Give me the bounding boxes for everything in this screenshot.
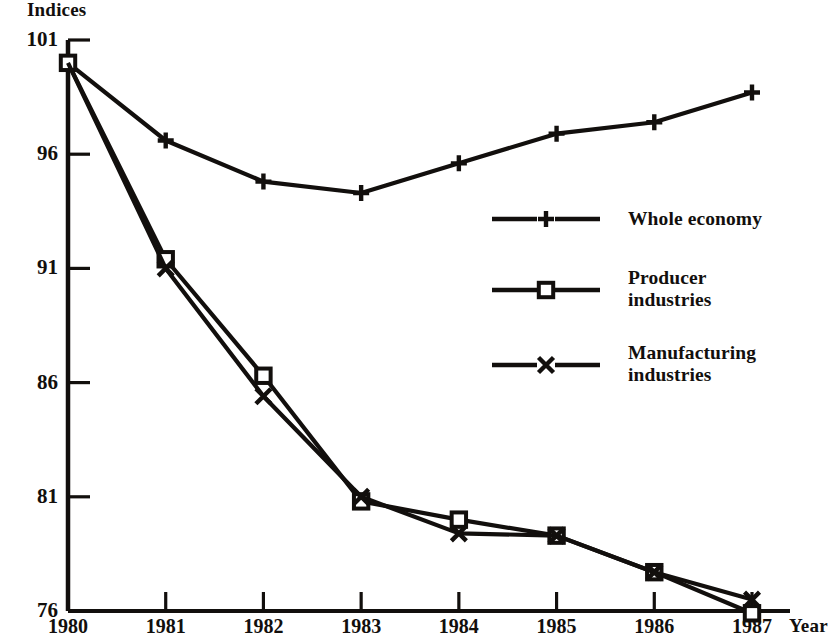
x-axis-tick-label: 1983 — [316, 616, 406, 636]
y-axis-tick-label: 101 — [0, 29, 58, 50]
cross-marker — [256, 389, 271, 404]
x-axis-tick-label: 1982 — [218, 616, 308, 636]
axes — [68, 40, 790, 611]
x-axis-tick-label: 1980 — [23, 616, 113, 636]
square-marker — [452, 512, 466, 526]
legend-item-label[interactable]: Manufacturing industries — [628, 342, 756, 386]
data-series-group — [61, 56, 760, 621]
data-series — [68, 63, 760, 201]
y-axis-tick-label: 86 — [0, 372, 58, 393]
x-axis-tick-label: 1987 — [707, 616, 797, 636]
y-axis-tick-label: 96 — [0, 143, 58, 164]
y-axis-tick-label: 81 — [0, 486, 58, 507]
square-marker — [539, 283, 553, 297]
plus-marker — [646, 114, 662, 130]
legend-marker-group — [492, 211, 600, 373]
series-line — [68, 63, 752, 613]
plus-marker — [451, 155, 467, 171]
plus-marker — [353, 185, 369, 201]
y-axis-title: Indices — [27, 0, 86, 21]
cross-marker — [539, 358, 554, 373]
x-axis-tick-label: 1985 — [512, 616, 602, 636]
plus-marker — [549, 126, 565, 142]
y-axis-ticks — [68, 40, 90, 611]
plus-marker — [255, 174, 271, 190]
chart-canvas — [0, 0, 831, 644]
y-axis-tick-label: 91 — [0, 257, 58, 278]
square-marker — [256, 369, 270, 383]
legend-item-label[interactable]: Producer industries — [628, 267, 711, 311]
plus-marker — [538, 211, 554, 227]
legend-item-label[interactable]: Whole economy — [628, 208, 762, 230]
x-axis-tick-label: 1984 — [414, 616, 504, 636]
x-axis-ticks — [166, 592, 752, 611]
x-axis-tick-label: 1981 — [121, 616, 211, 636]
plus-marker — [744, 85, 760, 101]
series-line — [68, 63, 752, 193]
x-axis-tick-label: 1986 — [609, 616, 699, 636]
line-chart: Indices Year 1019691868176 1980198119821… — [0, 0, 831, 644]
